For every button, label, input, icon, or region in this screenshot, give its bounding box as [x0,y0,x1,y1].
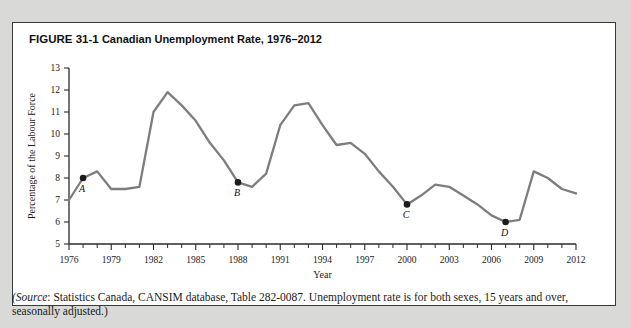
x-axis-tick-label: 1994 [313,255,332,265]
y-axis-tick-label: 8 [55,173,60,183]
data-point-marker-d [502,219,509,226]
x-axis-tick-label: 1988 [229,255,248,265]
chart-canvas: 5678910111213197619791982198519881991199… [13,23,617,307]
x-axis-title: Year [313,269,332,280]
x-axis-tick-label: 2009 [524,255,543,265]
source-text: : Statistics Canada, CANSIM database, Ta… [12,291,568,317]
x-axis-tick-label: 1979 [102,255,121,265]
y-axis-tick-label: 10 [51,129,61,139]
source-note: (Source: Statistics Canada, CANSIM datab… [12,290,612,319]
x-axis-tick-label: 1991 [271,255,290,265]
data-point-label-a: A [78,183,86,194]
y-axis-tick-label: 11 [51,107,60,117]
x-axis-tick-label: 1976 [60,255,79,265]
x-axis-tick-label: 2006 [482,255,501,265]
unemployment-line-chart: 5678910111213197619791982198519881991199… [13,23,617,307]
y-axis-tick-label: 12 [51,85,61,95]
data-point-marker-c [404,201,411,208]
x-axis-tick-label: 2012 [567,255,586,265]
y-axis-tick-label: 13 [51,63,61,73]
data-series-unemployment-rate [69,92,576,222]
x-axis-tick-label: 1982 [144,255,163,265]
y-axis-tick-label: 6 [55,217,60,227]
source-label: (Source [12,291,47,303]
y-axis-tick-label: 9 [55,151,60,161]
data-point-marker-b [235,179,242,186]
data-point-label-b: B [234,187,240,198]
x-axis-tick-label: 2003 [440,255,459,265]
x-axis-tick-label: 2000 [398,255,417,265]
y-axis-tick-label: 5 [55,239,60,249]
data-point-label-c: C [403,209,410,220]
data-point-marker-a [80,175,87,182]
y-axis-tick-label: 7 [55,195,60,205]
x-axis-tick-label: 1997 [355,255,374,265]
x-axis-tick-label: 1985 [186,255,205,265]
figure-panel: FIGURE 31-1 Canadian Unemployment Rate, … [12,22,616,306]
data-point-label-d: D [500,227,509,238]
y-axis-title: Percentage of the Labour Force [26,92,37,219]
